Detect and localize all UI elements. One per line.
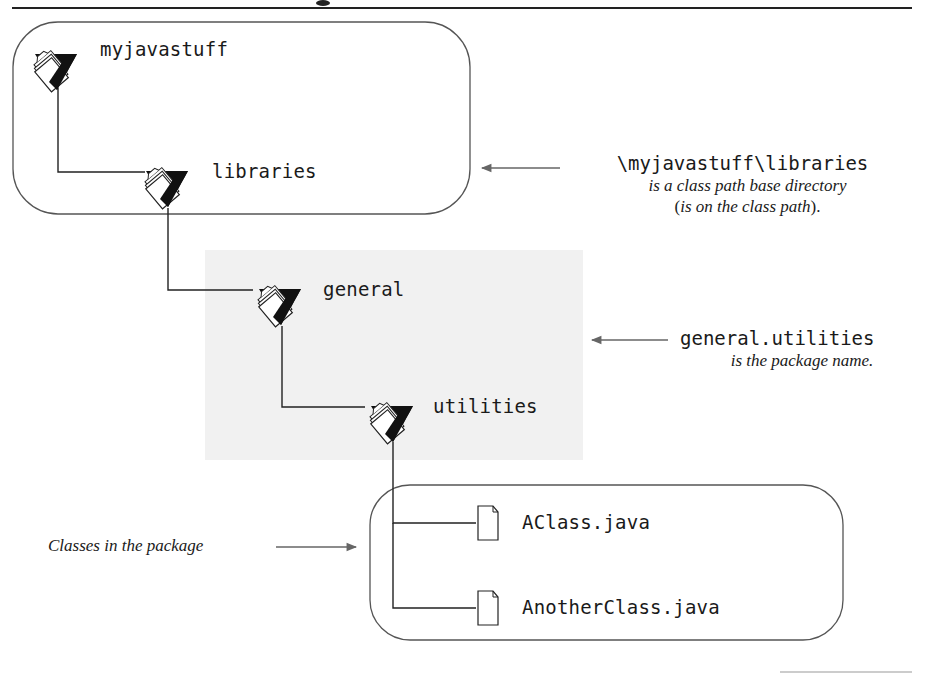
title-glyph-fragment xyxy=(316,0,330,6)
classpath-description: is a class path base directory xyxy=(560,176,925,196)
node-label-myjavastuff: myjavastuff xyxy=(100,38,228,60)
package-code: general.utilities xyxy=(672,327,925,349)
file-icon-anotherclass xyxy=(478,591,498,625)
node-label-general: general xyxy=(323,278,404,300)
package-annotation: general.utilities is the package name. xyxy=(672,327,925,371)
classpath-annotation: \myjavastuff\libraries is a class path b… xyxy=(560,152,925,217)
directory-structure-diagram: myjavastuff libraries general utilities … xyxy=(0,0,925,677)
classpath-box xyxy=(13,22,470,214)
classpath-note-italic: is on the class path xyxy=(680,197,810,216)
classpath-note: (is on the class path). xyxy=(560,197,925,217)
package-description: is the package name. xyxy=(672,351,925,371)
paren-close: ). xyxy=(811,197,821,216)
classpath-code: \myjavastuff\libraries xyxy=(560,152,925,174)
folder-icon-libraries xyxy=(139,165,188,209)
file-icon-aclass xyxy=(478,506,498,540)
edge-myjavastuff-libraries xyxy=(58,88,145,172)
node-label-libraries: libraries xyxy=(212,160,317,182)
node-label-anotherclass: AnotherClass.java xyxy=(522,596,720,618)
node-label-utilities: utilities xyxy=(433,395,538,417)
classes-annotation: Classes in the package xyxy=(48,536,203,556)
edge-utilities-anotherclass xyxy=(393,523,476,608)
node-label-aclass: AClass.java xyxy=(522,511,650,533)
folder-icon-myjavastuff xyxy=(28,48,77,92)
